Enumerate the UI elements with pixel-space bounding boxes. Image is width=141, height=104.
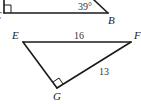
vertex-label-e: E — [11, 29, 19, 41]
bottom-triangle: E F G 16 13 — [11, 29, 141, 102]
side-gf — [57, 42, 131, 88]
side-eg — [23, 42, 57, 88]
top-triangle-hypotenuse — [94, 0, 108, 13]
vertex-label-g: G — [53, 90, 61, 102]
right-angle-marker-g — [53, 78, 63, 84]
vertex-label-b: B — [108, 14, 115, 26]
side-label-fg: 13 — [99, 66, 109, 77]
side-label-ef: 16 — [74, 30, 84, 41]
geometry-figure: 39° B C E F G 16 13 — [0, 0, 141, 104]
angle-label-39: 39° — [78, 1, 92, 12]
top-triangle: 39° B C — [0, 0, 115, 26]
top-right-angle-marker — [4, 5, 11, 13]
vertex-label-c: C — [0, 9, 2, 21]
vertex-label-f: F — [133, 29, 141, 41]
